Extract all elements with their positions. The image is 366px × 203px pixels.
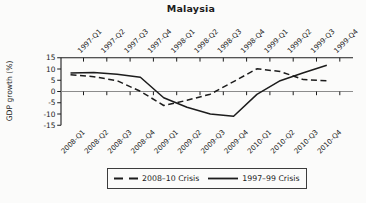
bottom-x-axis-label: 2008-Q1 bbox=[60, 128, 87, 155]
top-x-axis-label: 1999-Q4 bbox=[333, 27, 361, 55]
dashed-line-sample-icon bbox=[114, 176, 138, 181]
legend-entry-1997-99: 1997–99 Crisis bbox=[208, 174, 299, 183]
top-x-axis-label: 1997-Q2 bbox=[100, 28, 127, 55]
legend-label-2008-10: 2008–10 Crisis bbox=[142, 174, 199, 183]
top-x-axis-labels: 1997-Q11997-Q21997-Q31997-Q41998-Q11998-… bbox=[76, 27, 360, 55]
top-x-axis-label: 1997-Q3 bbox=[123, 28, 150, 55]
solid-line-sample-icon bbox=[208, 176, 238, 181]
top-x-axis-label: 1999-Q3 bbox=[309, 28, 336, 55]
bottom-x-axis-label: 2010-Q1 bbox=[246, 128, 273, 155]
bottom-x-axis-label: 2008-Q3 bbox=[106, 128, 133, 155]
top-x-axis-ticks bbox=[84, 58, 340, 62]
y-axis-tick-label: -5 bbox=[48, 98, 56, 107]
y-axis-tick-label: -15 bbox=[43, 121, 55, 130]
bottom-x-axis-label: 2009-Q1 bbox=[153, 128, 180, 155]
bottom-x-axis-label: 2009-Q2 bbox=[176, 128, 203, 155]
y-axis-tick-label: 5 bbox=[51, 76, 56, 85]
data-series-lines bbox=[71, 65, 327, 116]
top-x-axis-label: 1998-Q3 bbox=[216, 28, 243, 55]
top-x-axis-label: 1998-Q2 bbox=[193, 28, 220, 55]
top-x-axis-label: 1997-Q1 bbox=[76, 28, 103, 55]
legend-entry-2008-10: 2008–10 Crisis bbox=[114, 174, 199, 183]
bottom-x-axis-label: 2008-Q2 bbox=[83, 128, 110, 155]
series-line-solid bbox=[71, 65, 327, 116]
bottom-x-axis-label: 2010-Q2 bbox=[269, 128, 296, 155]
top-x-axis-label: 1999-Q2 bbox=[286, 28, 313, 55]
bottom-x-axis-labels: 2008-Q12008-Q22008-Q32008-Q42009-Q12009-… bbox=[60, 128, 344, 156]
y-axis-tick-label: -10 bbox=[43, 110, 55, 119]
y-axis-tick-label: 15 bbox=[46, 53, 56, 62]
y-axis-tick-label: 0 bbox=[51, 87, 56, 96]
top-x-axis-label: 1998-Q1 bbox=[169, 28, 196, 55]
gdp-growth-crisis-chart: Malaysia 151050-5-10-15 1997-Q11997-Q219… bbox=[0, 0, 366, 203]
legend-label-1997-99: 1997–99 Crisis bbox=[242, 174, 299, 183]
y-axis-ticks bbox=[57, 58, 61, 126]
bottom-x-axis-label: 2009-Q3 bbox=[199, 128, 226, 155]
y-axis-tick-label: 10 bbox=[46, 65, 56, 74]
bottom-x-axis-label: 2010-Q3 bbox=[293, 128, 320, 155]
bottom-x-axis-label: 2010-Q4 bbox=[316, 128, 344, 156]
y-axis-title: GDP growth (%) bbox=[5, 61, 14, 122]
y-axis-tick-labels: 151050-5-10-15 bbox=[43, 53, 55, 130]
top-x-axis-label: 1999-Q1 bbox=[263, 28, 290, 55]
legend-box: 2008–10 Crisis 1997–99 Crisis bbox=[107, 168, 307, 189]
